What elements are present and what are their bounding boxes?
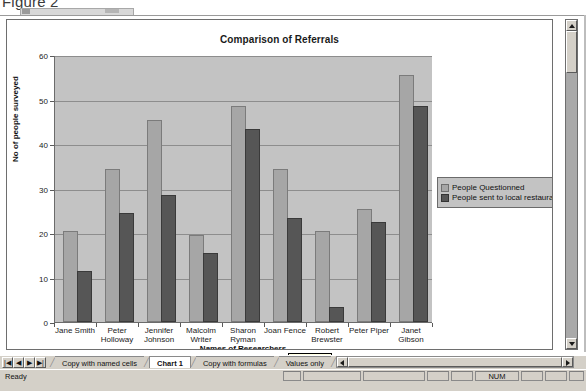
y-axis-tick-label: 40: [30, 141, 48, 150]
bar-questionned[interactable]: [147, 120, 162, 322]
y-axis-tick-label: 0: [30, 319, 48, 328]
status-cell: [521, 371, 543, 381]
sheet-nav-arrow-icon: ▶|: [36, 358, 45, 367]
x-axis-tick-label: Joan Fence: [264, 326, 306, 335]
plot-wrapper: No of people surveyed 0102030405060 Jane…: [7, 20, 552, 349]
sheet-tab-copy-with-named-cells[interactable]: Copy with named cells: [55, 356, 144, 368]
status-cell: [545, 371, 567, 381]
y-axis-tick-mark: [50, 101, 54, 102]
y-axis-tick-label: 50: [30, 97, 48, 106]
toolbar-grip[interactable]: [22, 9, 30, 14]
bar-questionned[interactable]: [273, 169, 288, 322]
bar-questionned[interactable]: [189, 235, 204, 322]
sheet-nav-button[interactable]: ▶|: [35, 357, 46, 368]
sheet-nav-button[interactable]: ◀: [13, 357, 24, 368]
legend-label: People Questionned: [452, 183, 525, 192]
bar-questionned[interactable]: [399, 75, 414, 322]
bar-restaurant[interactable]: [329, 307, 344, 322]
x-axis-tick-label: SharonRyman: [222, 326, 264, 344]
horizontal-scrollbar[interactable]: [336, 356, 574, 368]
x-axis-tick-label: PeterHolloway: [96, 326, 138, 344]
bar-restaurant[interactable]: [203, 253, 218, 322]
x-axis-tick-label: RobertBrewster: [306, 326, 348, 344]
legend-swatch-icon: [441, 194, 449, 202]
scroll-down-arrow-icon[interactable]: [566, 338, 577, 349]
bar-questionned[interactable]: [231, 106, 246, 322]
bar-questionned[interactable]: [315, 231, 330, 322]
status-cell: [451, 371, 473, 381]
gridline: [55, 101, 432, 102]
bar-restaurant[interactable]: [245, 129, 260, 322]
sheet-tabs[interactable]: ╱Copy with named cells╱Chart 1╱Copy with…: [50, 356, 336, 368]
chart-canvas[interactable]: Comparison of Referrals No of people sur…: [6, 19, 553, 350]
sheet-nav-buttons[interactable]: |◀◀▶▶|: [2, 357, 46, 368]
bar-questionned[interactable]: [105, 169, 120, 322]
bar-questionned[interactable]: [357, 209, 372, 322]
x-axis-tick-label: JanetGibson: [390, 326, 432, 344]
vertical-scroll-thumb[interactable]: [566, 31, 577, 73]
x-axis-title: Names of Researchers: [54, 344, 432, 350]
bar-restaurant[interactable]: [371, 222, 386, 322]
scroll-left-arrow-icon[interactable]: [337, 357, 348, 367]
vertical-scroll-track[interactable]: [566, 73, 577, 338]
x-axis-tick-label: MalcolmWriter: [180, 326, 222, 344]
chart-window: Comparison of Referrals No of people sur…: [0, 15, 584, 352]
status-cell: [283, 371, 301, 381]
scroll-right-arrow-icon[interactable]: [562, 357, 573, 367]
y-axis-tick-label: 20: [30, 230, 48, 239]
y-axis-tick-mark: [50, 56, 54, 57]
y-axis-tick-mark: [50, 234, 54, 235]
bar-restaurant[interactable]: [77, 271, 92, 322]
bar-questionned[interactable]: [63, 231, 78, 322]
x-axis-tick-label: Peter Piper: [348, 326, 390, 335]
chart-legend[interactable]: People QuestionnedPeople sent to local r…: [437, 177, 553, 208]
y-axis-title: No of people surveyed: [11, 76, 20, 162]
sheet-nav-arrow-icon: |◀: [3, 358, 12, 367]
bar-restaurant[interactable]: [413, 106, 428, 322]
sheet-nav-arrow-icon: ▶: [25, 358, 34, 367]
scroll-up-arrow-icon[interactable]: [566, 20, 577, 31]
legend-item[interactable]: People sent to local restaurant: [441, 193, 553, 202]
y-axis-tick-mark: [50, 190, 54, 191]
sheet-nav-button[interactable]: |◀: [2, 357, 13, 368]
y-axis-tick-mark: [50, 279, 54, 280]
legend-item[interactable]: People Questionned: [441, 183, 553, 192]
status-cell: [569, 371, 584, 381]
sheet-tab-copy-with-formulas[interactable]: Copy with formulas: [196, 356, 274, 368]
x-axis-tick-mark: [432, 323, 433, 327]
legend-label: People sent to local restaurant: [452, 193, 553, 202]
horizontal-scroll-thumb[interactable]: [348, 357, 562, 367]
y-axis-tick-label: 30: [30, 186, 48, 195]
x-axis-tick-label: JenniferJohnson: [138, 326, 180, 344]
status-bar: Ready NUM: [0, 369, 586, 391]
sheet-tab-values-only[interactable]: Values only: [279, 356, 331, 368]
status-cell: [303, 371, 361, 381]
status-indicator-num: NUM: [475, 372, 519, 381]
y-axis-tick-mark: [50, 145, 54, 146]
y-axis-tick-label: 10: [30, 275, 48, 284]
status-cell: [363, 371, 425, 381]
x-axis-tick-label: Jane Smith: [54, 326, 96, 335]
legend-swatch-icon: [441, 184, 449, 192]
gridline: [55, 56, 432, 57]
plot-area[interactable]: [54, 56, 432, 323]
sheet-nav-button[interactable]: ▶: [24, 357, 35, 368]
bar-restaurant[interactable]: [119, 213, 134, 322]
sheet-tab-chart-1[interactable]: Chart 1: [149, 356, 191, 368]
status-cell: [427, 371, 449, 381]
toolbar-button[interactable]: [105, 9, 119, 13]
bar-restaurant[interactable]: [161, 195, 176, 322]
vertical-scrollbar[interactable]: [565, 19, 578, 350]
sheet-nav-arrow-icon: ◀: [14, 358, 23, 367]
bar-restaurant[interactable]: [287, 218, 302, 322]
status-message: Ready: [5, 372, 27, 381]
y-axis-tick-label: 60: [30, 52, 48, 61]
